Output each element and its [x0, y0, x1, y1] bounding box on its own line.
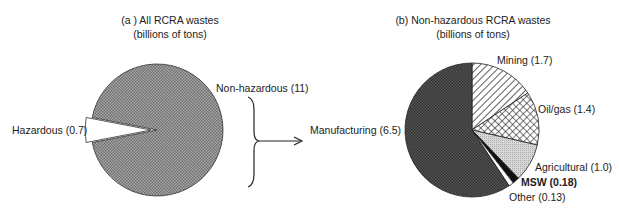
- chart-a-title: (a ) All RCRA wastes (billions of tons): [95, 13, 245, 41]
- chart-a-title-line: (a ) All RCRA wastes: [95, 13, 245, 27]
- chart-b-title: (b) Non-hazardous RCRA wastes (billions …: [378, 13, 568, 41]
- pie-a: [85, 64, 223, 196]
- brace-arrow: [248, 97, 302, 187]
- label-oilgas: Oil/gas (1.4): [538, 103, 595, 115]
- label-other: Other (0.13): [509, 191, 566, 203]
- label-nonhazardous: Non-hazardous (11): [216, 82, 309, 94]
- chart-b-title-line: (b) Non-hazardous RCRA wastes: [378, 13, 568, 27]
- label-mining: Mining (1.7): [497, 54, 552, 66]
- label-agricultural: Agricultural (1.0): [535, 161, 612, 173]
- label-msw: MSW (0.18): [521, 176, 577, 188]
- chart-b-subtitle: (billions of tons): [378, 27, 568, 41]
- label-manufacturing: Manufacturing (6.5): [310, 124, 401, 136]
- chart-a-subtitle: (billions of tons): [95, 27, 245, 41]
- pie-b: [405, 63, 539, 197]
- label-hazardous: Hazardous (0.7): [12, 124, 87, 136]
